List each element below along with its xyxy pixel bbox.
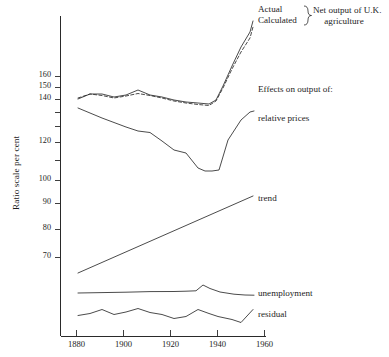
series-line-relative-prices <box>78 108 254 171</box>
y-tick-label-150: 150 <box>29 82 51 91</box>
legend-label-actual: Actual <box>258 5 282 15</box>
x-axis-ticks <box>77 330 265 337</box>
x-tick-label-1960: 1960 <box>248 340 282 349</box>
y-tick-label-70: 70 <box>29 252 51 261</box>
y-tick-label-120: 120 <box>29 137 51 146</box>
chart-title-line-1: Net output of U.K. <box>313 5 381 16</box>
series-line-calculated <box>78 27 253 106</box>
series-label-relative-prices: relative prices <box>258 114 309 124</box>
series-line-actual <box>78 21 253 104</box>
x-tick-label-1920: 1920 <box>154 340 188 349</box>
series-line-trend <box>78 196 253 273</box>
y-tick-label-140: 140 <box>29 94 51 103</box>
x-tick-label-1880: 1880 <box>60 340 94 349</box>
x-tick-label-1940: 1940 <box>201 340 235 349</box>
y-tick-label-100: 100 <box>29 175 51 184</box>
y-axis-title: Ratio scale per cent <box>12 136 22 210</box>
series-label-unemployment: unemployment <box>258 289 313 299</box>
series-label-trend: trend <box>258 194 277 204</box>
legend-brace <box>304 6 312 25</box>
chart-plot-area <box>0 0 389 357</box>
legend-effects-header: Effects on output of: <box>258 85 333 95</box>
series-label-residual: residual <box>258 310 287 320</box>
y-tick-label-90: 90 <box>29 198 51 207</box>
series-line-unemployment <box>78 285 254 295</box>
y-tick-label-80: 80 <box>29 224 51 233</box>
chart-title-line-2: agriculture <box>313 16 375 27</box>
y-axis-ticks <box>55 77 61 258</box>
series-line-residual <box>78 309 253 323</box>
legend-label-calculated: Calculated <box>258 16 297 26</box>
x-tick-label-1900: 1900 <box>107 340 141 349</box>
y-tick-label-160: 160 <box>29 71 51 80</box>
chart-figure: Ratio scale per cent 160 150 140 120 100… <box>0 0 389 357</box>
